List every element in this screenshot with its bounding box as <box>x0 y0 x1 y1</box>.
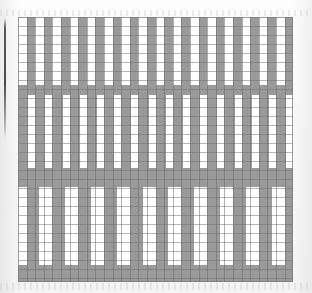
stripe <box>259 95 269 168</box>
stripe <box>27 187 40 265</box>
stripe <box>35 95 45 168</box>
stripe <box>104 187 117 265</box>
stripe <box>104 95 114 168</box>
band-3 <box>18 187 293 265</box>
stripe <box>78 17 87 85</box>
stripe <box>147 17 156 85</box>
stripe <box>216 17 225 85</box>
stripe <box>242 95 252 168</box>
stripe <box>27 17 36 85</box>
band-2 <box>18 95 293 168</box>
stripe <box>130 17 139 85</box>
stripe <box>233 187 246 265</box>
gutter-rule <box>4 18 6 138</box>
stripe <box>52 187 65 265</box>
stripe <box>95 17 104 85</box>
figure-canvas: Vertical stripe grid pattern <box>0 0 312 293</box>
stripe <box>87 95 97 168</box>
stripe <box>18 95 28 168</box>
scan-noise-band-bottom <box>0 283 312 290</box>
stripe <box>259 187 272 265</box>
stripe <box>138 95 148 168</box>
band-1 <box>18 17 293 85</box>
stripe <box>52 95 62 168</box>
stripe <box>61 17 70 85</box>
stripe <box>181 17 190 85</box>
stripe <box>233 17 242 85</box>
stripe <box>285 187 293 265</box>
stripe <box>181 187 194 265</box>
stripe <box>276 95 286 168</box>
stripe <box>224 95 234 168</box>
stripe <box>190 95 200 168</box>
stripe <box>70 95 80 168</box>
stripe <box>164 17 173 85</box>
stripe <box>156 95 166 168</box>
stripe <box>199 17 208 85</box>
stripe <box>250 17 259 85</box>
stripe <box>130 187 143 265</box>
rule-row-3 <box>18 265 293 282</box>
stripe <box>267 17 276 85</box>
stripe <box>207 187 220 265</box>
stripe <box>207 95 217 168</box>
stripe <box>285 17 293 85</box>
stripe <box>156 187 169 265</box>
stripe <box>78 187 91 265</box>
stripe <box>113 17 122 85</box>
scan-noise-band-top <box>0 10 312 16</box>
stripe <box>121 95 131 168</box>
stripe <box>44 17 53 85</box>
stripe <box>173 95 183 168</box>
grid-plate <box>18 17 293 282</box>
rule-row-1 <box>18 85 293 95</box>
rule-row-2 <box>18 168 293 187</box>
